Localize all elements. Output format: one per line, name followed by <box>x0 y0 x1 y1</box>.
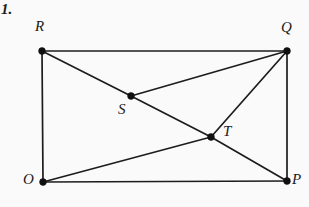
geometry-figure: 1. R Q O P S T <box>0 0 309 207</box>
vertex-dot-P <box>284 178 291 185</box>
segment-PO <box>43 181 287 182</box>
segment-SQ <box>131 51 287 96</box>
point-label-Q: Q <box>281 20 292 35</box>
vertex-dot-Q <box>284 48 291 55</box>
vertex-dot-S <box>128 93 135 100</box>
segment-OT <box>43 137 211 182</box>
point-label-T: T <box>223 124 231 139</box>
vertex-dot-T <box>208 134 215 141</box>
figure-canvas <box>0 0 309 207</box>
vertex-dot-R <box>39 48 46 55</box>
point-label-O: O <box>23 172 34 187</box>
point-label-R: R <box>35 19 44 34</box>
point-label-P: P <box>292 172 301 187</box>
segment-OR <box>42 51 43 182</box>
vertex-dot-O <box>40 179 47 186</box>
point-label-S: S <box>118 102 126 117</box>
segment-RSTP <box>42 51 287 181</box>
